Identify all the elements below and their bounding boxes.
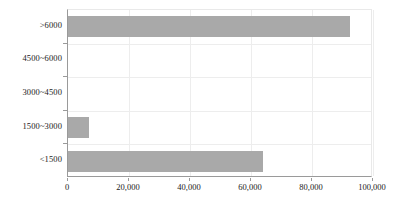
gridline-horizontal	[68, 44, 371, 45]
bar-row	[68, 117, 371, 138]
x-axis-label: 20,000	[116, 182, 139, 192]
x-axis-label: 80,000	[299, 182, 322, 192]
bar-row	[68, 16, 371, 37]
x-axis-label: 100,000	[358, 182, 386, 192]
y-axis-label: 3000~4500	[0, 87, 62, 97]
bar-row	[68, 151, 371, 172]
plot-area	[67, 9, 372, 177]
y-axis-label: <1500	[0, 154, 62, 164]
x-axis-label: 60,000	[238, 182, 261, 192]
bar	[68, 151, 263, 172]
x-axis-tick	[250, 178, 251, 181]
x-axis-tick	[67, 178, 68, 181]
y-axis-label: >6000	[0, 20, 62, 30]
x-axis-tick	[311, 178, 312, 181]
bar	[68, 117, 89, 138]
y-axis-label: 4500~6000	[0, 53, 62, 63]
gridline-vertical	[373, 10, 374, 176]
gridline-horizontal	[68, 111, 371, 112]
x-axis-label: 0	[65, 182, 69, 192]
x-axis-tick	[189, 178, 190, 181]
gridline-horizontal	[68, 144, 371, 145]
y-axis-label: 1500~3000	[0, 121, 62, 131]
bar-chart: >60004500~60003000~45001500~3000<1500 02…	[0, 0, 403, 203]
x-axis-label: 40,000	[177, 182, 200, 192]
bar	[68, 16, 350, 37]
x-axis-tick	[372, 178, 373, 181]
y-axis-tick	[63, 143, 67, 144]
y-axis-tick	[63, 110, 67, 111]
gridline-horizontal	[68, 77, 371, 78]
y-axis-tick	[63, 43, 67, 44]
y-axis-tick	[63, 76, 67, 77]
x-axis-tick	[128, 178, 129, 181]
